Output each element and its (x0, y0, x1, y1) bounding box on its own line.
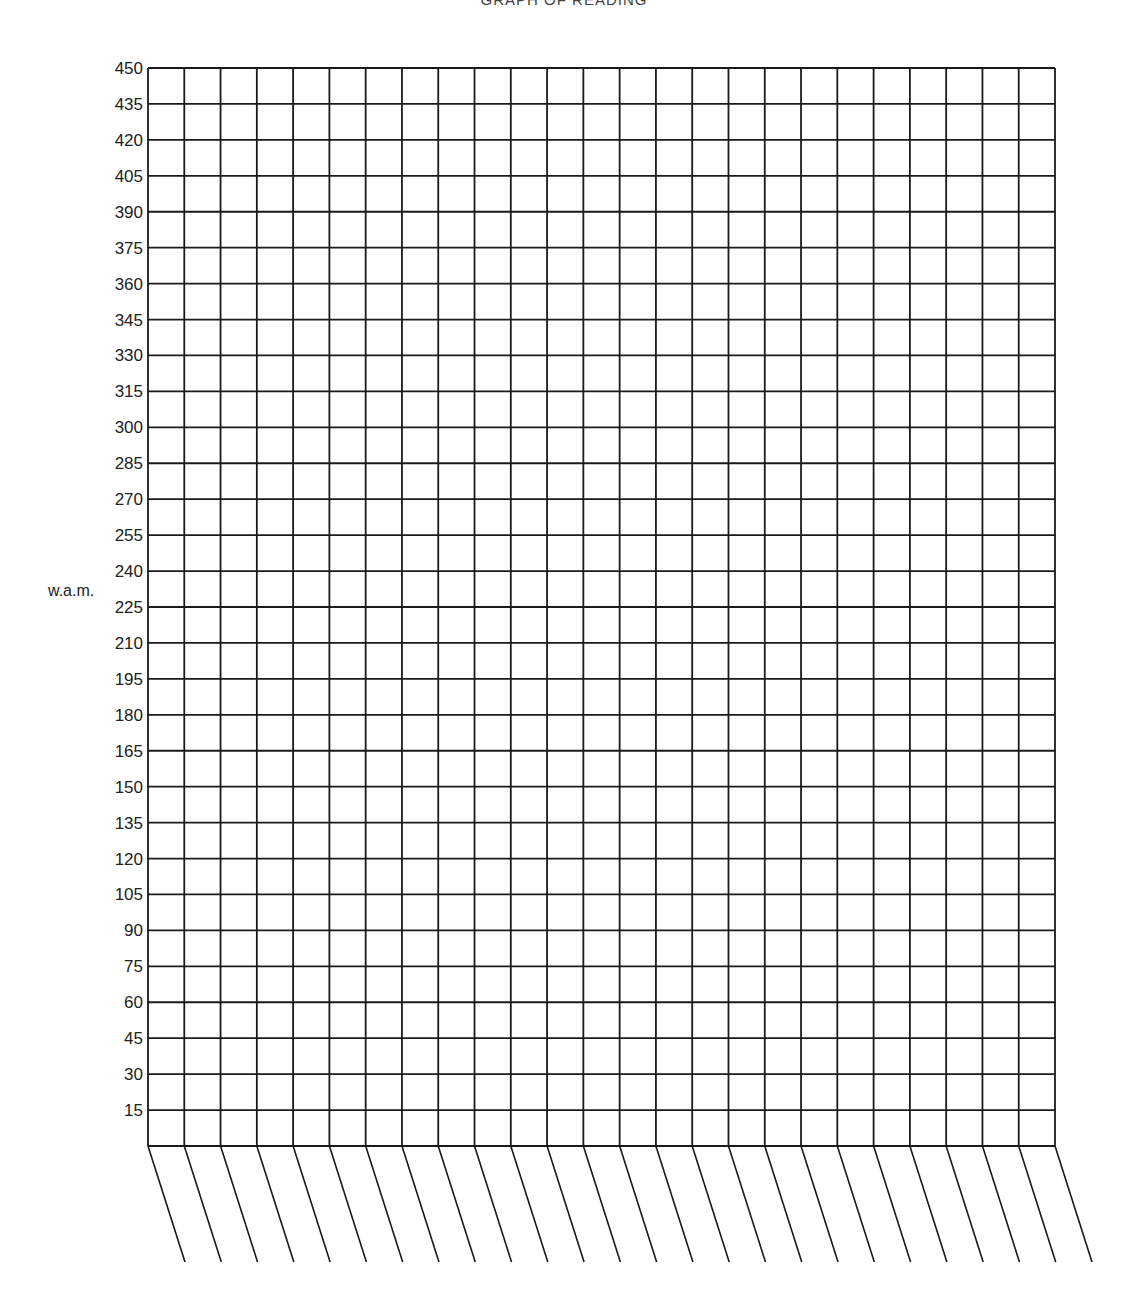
x-label-slot-line (221, 1146, 258, 1262)
x-label-slot-line (874, 1146, 911, 1262)
y-tick-label: 360 (115, 275, 143, 294)
x-label-slot-line (293, 1146, 330, 1262)
y-tick-label: 390 (115, 203, 143, 222)
y-tick-label: 195 (115, 670, 143, 689)
y-tick-label: 60 (124, 993, 143, 1012)
y-tick-label: 150 (115, 778, 143, 797)
x-label-slot-line (837, 1146, 874, 1262)
y-axis-label: w.a.m. (47, 582, 94, 599)
y-tick-label: 105 (115, 885, 143, 904)
y-tick-label: 285 (115, 454, 143, 473)
y-tick-label: 225 (115, 598, 143, 617)
x-label-slot-line (910, 1146, 947, 1262)
x-label-slot-line (366, 1146, 403, 1262)
x-label-slot-line (184, 1146, 221, 1262)
y-tick-label: 450 (115, 59, 143, 78)
x-label-slot-line (257, 1146, 294, 1262)
x-label-slot-line (511, 1146, 548, 1262)
x-label-slot-line (982, 1146, 1019, 1262)
x-label-slot-line (656, 1146, 693, 1262)
y-tick-label: 255 (115, 526, 143, 545)
y-tick-label: 405 (115, 167, 143, 186)
y-tick-label: 180 (115, 706, 143, 725)
x-label-slot-line (1055, 1146, 1092, 1262)
y-tick-label: 165 (115, 742, 143, 761)
x-label-slot-line (438, 1146, 475, 1262)
y-tick-label: 75 (124, 957, 143, 976)
x-label-slot-line (801, 1146, 838, 1262)
y-tick-label: 90 (124, 921, 143, 940)
y-tick-label: 120 (115, 850, 143, 869)
y-tick-label: 330 (115, 346, 143, 365)
x-label-slot-line (547, 1146, 584, 1262)
y-tick-label: 210 (115, 634, 143, 653)
y-tick-label: 300 (115, 418, 143, 437)
x-label-slot-line (1019, 1146, 1056, 1262)
y-tick-label: 135 (115, 814, 143, 833)
x-label-slot-line (728, 1146, 765, 1262)
x-label-slot-line (946, 1146, 983, 1262)
x-label-slot-line (148, 1146, 185, 1262)
x-label-slot-line (765, 1146, 802, 1262)
y-tick-label: 345 (115, 311, 143, 330)
x-label-slot-line (620, 1146, 657, 1262)
y-tick-label: 270 (115, 490, 143, 509)
x-label-slot-line (583, 1146, 620, 1262)
x-label-slot-line (475, 1146, 512, 1262)
y-tick-label: 435 (115, 95, 143, 114)
x-label-slot-line (692, 1146, 729, 1262)
y-tick-label: 15 (124, 1101, 143, 1120)
y-tick-label: 240 (115, 562, 143, 581)
y-tick-label: 45 (124, 1029, 143, 1048)
y-tick-label: 30 (124, 1065, 143, 1084)
x-label-slot-line (402, 1146, 439, 1262)
y-tick-label: 315 (115, 382, 143, 401)
y-tick-label: 375 (115, 239, 143, 258)
y-tick-label: 420 (115, 131, 143, 150)
blank-reading-graph: 1530456075901051201351501651801952102252… (0, 0, 1128, 1305)
x-label-slot-line (329, 1146, 366, 1262)
